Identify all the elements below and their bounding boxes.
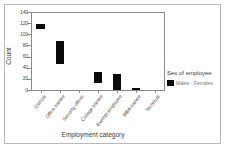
bar: [56, 41, 64, 64]
bar: [36, 24, 44, 28]
y-axis-tick-label: 120: [6, 21, 28, 26]
legend: Sex of employee Males - Females: [167, 69, 223, 86]
chart-figure: 020406080100120140 ClericalOffice traine…: [0, 0, 227, 150]
bar: [94, 72, 102, 83]
y-axis-title: Count: [5, 33, 13, 79]
x-axis-title: Employment category: [18, 131, 168, 139]
bar: [113, 74, 121, 90]
y-axis-tick-label: 0: [6, 88, 28, 93]
legend-title: Sex of employee: [167, 69, 223, 77]
y-axis-tick-label: 140: [6, 10, 28, 15]
legend-item-label: Males - Females: [176, 80, 213, 86]
legend-item: Males - Females: [167, 80, 223, 86]
legend-swatch: [167, 80, 174, 86]
